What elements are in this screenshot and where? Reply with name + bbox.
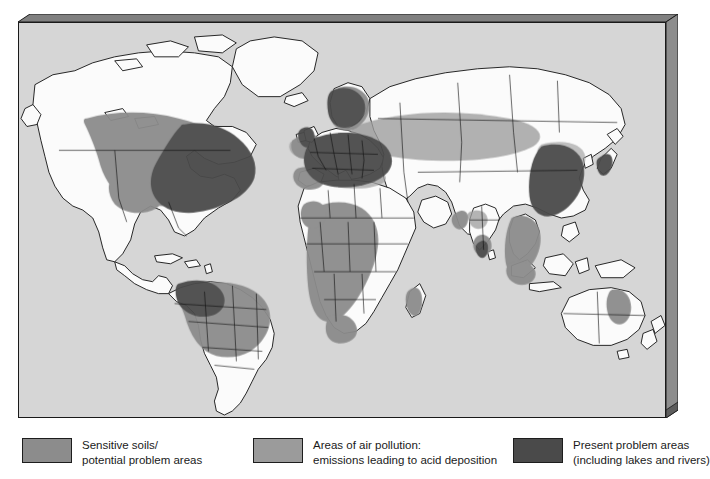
legend-label-line2: (including lakes and rivers) <box>573 453 710 468</box>
legend-swatch-present-problem-areas <box>513 438 563 463</box>
legend-label-present-problem-areas: Present problem areas (including lakes a… <box>573 438 710 467</box>
lesser-antilles <box>204 264 212 274</box>
legend-swatch-air-pollution <box>253 438 303 463</box>
map-plate <box>18 22 666 418</box>
legend-label-sensitive-soils: Sensitive soils/ potential problem areas <box>82 438 202 467</box>
legend-item-air-pollution: Areas of air pollution: emissions leadin… <box>253 438 497 467</box>
map-frame <box>18 14 678 418</box>
legend-label-line2: potential problem areas <box>82 453 202 468</box>
tasmania <box>617 349 629 359</box>
map-legend: Sensitive soils/ potential problem areas… <box>0 433 694 479</box>
legend-item-present-problem-areas: Present problem areas (including lakes a… <box>513 438 710 467</box>
legend-label-line1: Present problem areas <box>573 439 689 451</box>
world-map-svg <box>19 23 665 417</box>
region-west-africa-sensitive <box>301 201 327 228</box>
legend-label-air-pollution: Areas of air pollution: emissions leadin… <box>313 438 497 467</box>
legend-swatch-sensitive-soils <box>22 438 72 463</box>
legend-label-line1: Areas of air pollution: <box>313 439 421 451</box>
legend-label-line2: emissions leading to acid deposition <box>313 453 497 468</box>
legend-label-line1: Sensitive soils/ <box>82 439 158 451</box>
legend-item-sensitive-soils: Sensitive soils/ potential problem areas <box>22 438 202 467</box>
